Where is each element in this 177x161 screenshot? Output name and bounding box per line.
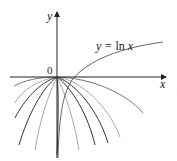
x-axis-label: x [159,77,166,91]
family-curves [14,77,143,155]
curve-label-fn: ln [115,39,124,53]
graph-canvas: y x 0 y = ln x [0,0,177,161]
curve-label: y = ln x [95,39,134,53]
y-axis-label: y [46,9,53,23]
curve-label-prefix: y = [95,39,115,53]
origin-label: 0 [47,64,53,76]
ln-curve [58,42,163,158]
family-curve-10 [57,77,143,113]
curve-label-var: x [125,39,134,53]
